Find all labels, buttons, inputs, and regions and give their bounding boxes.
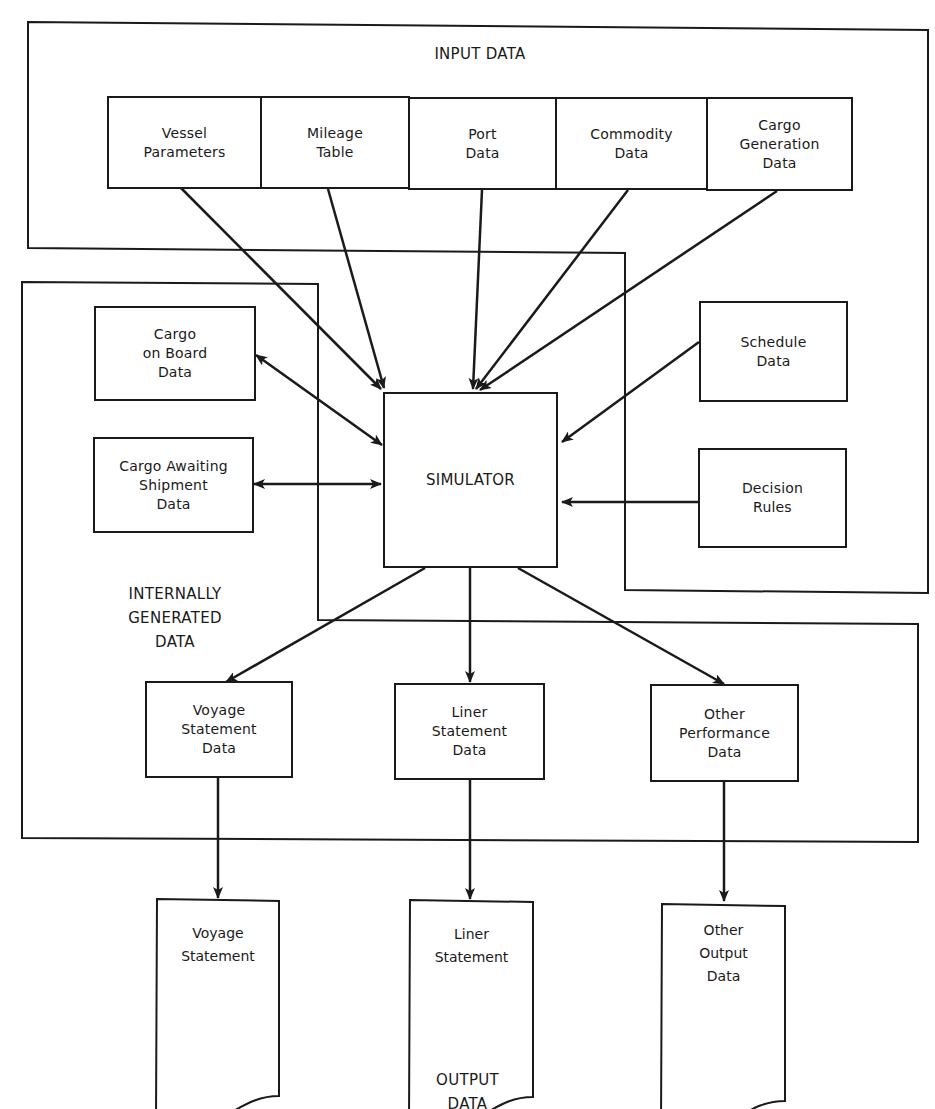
other-output-data-doc-label: Other Output Data — [662, 919, 785, 988]
port-data-box: Port Data — [408, 97, 557, 190]
cargo-awaiting-shipment-box: Cargo Awaiting Shipment Data — [93, 437, 254, 533]
schedule-data-box: Schedule Data — [699, 301, 848, 402]
liner-statement-doc-label: Liner Statement — [410, 923, 533, 969]
voyage-statement-doc: Voyage Statement — [157, 900, 279, 1109]
liner-statement-doc: Liner Statement — [410, 901, 533, 1109]
commodity-data-box: Commodity Data — [555, 97, 708, 190]
vessel-parameters-box: Vessel Parameters — [107, 96, 262, 189]
internally-generated-label: INTERNALLY GENERATED DATA — [90, 582, 260, 654]
mileage-table-box: Mileage Table — [260, 96, 410, 189]
simulator-box: SIMULATOR — [383, 392, 558, 568]
other-output-data-doc: Other Output Data — [662, 905, 785, 1109]
other-performance-data-box: Other Performance Data — [650, 684, 799, 782]
liner-statement-data-box: Liner Statement Data — [394, 683, 545, 780]
cargo-generation-data-box: Cargo Generation Data — [706, 97, 853, 191]
voyage-statement-data-box: Voyage Statement Data — [145, 681, 293, 778]
cargo-on-board-data-box: Cargo on Board Data — [94, 306, 256, 401]
decision-rules-box: Decision Rules — [698, 448, 847, 548]
voyage-statement-doc-label: Voyage Statement — [157, 922, 279, 968]
input-data-label: INPUT DATA — [380, 42, 580, 66]
